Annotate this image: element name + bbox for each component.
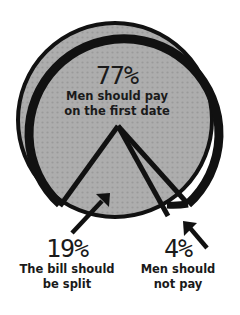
desc-77-line1: Men should pay xyxy=(60,89,174,104)
label-slice-77: 77% Men should pay on the first date xyxy=(60,63,174,119)
desc-4-line2: not pay xyxy=(138,277,218,292)
pct-19: 19% xyxy=(12,236,122,262)
desc-4-line1: Men should xyxy=(138,262,218,277)
desc-19-line2: be split xyxy=(12,277,122,292)
label-slice-4: 4% Men should not pay xyxy=(138,236,218,292)
pct-4: 4% xyxy=(138,236,218,262)
desc-77-line2: on the first date xyxy=(60,104,174,119)
pct-77: 77% xyxy=(60,63,174,89)
label-slice-19: 19% The bill should be split xyxy=(12,236,122,292)
desc-19-line1: The bill should xyxy=(12,262,122,277)
